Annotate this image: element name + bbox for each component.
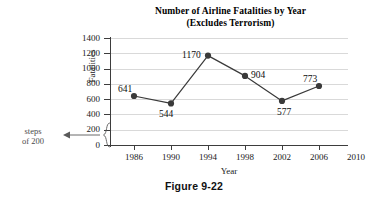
y-axis-title: Fatalities	[87, 32, 97, 100]
steps-annotation-pointer	[60, 118, 114, 152]
plot-area	[110, 38, 348, 145]
chart-title-line2: (Excludes Terrorism)	[186, 18, 274, 28]
chart-title: Number of Airline Fatalities by Year (Ex…	[108, 6, 353, 29]
y-axis-tick	[104, 114, 110, 115]
x-axis-tick	[134, 145, 135, 150]
x-axis-tick	[319, 145, 320, 150]
left-arrow-icon	[63, 132, 70, 139]
x-axis-label: 2006	[299, 152, 339, 162]
chart-title-line1: Number of Airline Fatalities by Year	[155, 6, 306, 16]
gridline	[110, 130, 348, 131]
gridline	[110, 53, 348, 54]
gridline	[110, 84, 348, 85]
figure-container: Number of Airline Fatalities by Year (Ex…	[0, 0, 388, 197]
x-axis-tick	[208, 145, 209, 150]
data-point-label: 904	[251, 70, 265, 80]
y-axis-tick	[104, 99, 110, 100]
steps-annotation-line1: steps	[25, 126, 42, 136]
data-point-label: 544	[159, 109, 173, 119]
x-axis-title: Year	[110, 166, 348, 176]
x-axis-tick	[245, 145, 246, 150]
gridline	[110, 99, 348, 100]
x-axis-label: 1990	[151, 152, 191, 162]
data-point-label: 641	[118, 84, 132, 94]
gridline	[110, 38, 348, 39]
gridline	[110, 114, 348, 115]
x-axis-label: 1986	[114, 152, 154, 162]
data-point-label: 1170	[182, 50, 201, 60]
gridline	[110, 69, 348, 70]
x-axis-label: 2002	[262, 152, 302, 162]
x-axis-label: 2010	[336, 152, 376, 162]
steps-annotation-line2: of 200	[22, 136, 44, 146]
x-axis-label: 1998	[225, 152, 265, 162]
data-point-label: 773	[303, 74, 317, 84]
steps-annotation-text: steps of 200	[2, 126, 64, 146]
y-axis-tick	[104, 53, 110, 54]
y-axis-tick	[104, 69, 110, 70]
x-axis-tick	[171, 145, 172, 150]
data-point-label: 577	[277, 107, 291, 117]
y-axis-tick	[104, 84, 110, 85]
curly-brace-icon	[104, 123, 110, 147]
x-axis-line	[110, 145, 348, 146]
x-axis-tick	[282, 145, 283, 150]
figure-caption: Figure 9-22	[0, 180, 388, 192]
y-axis-tick	[104, 38, 110, 39]
x-axis-label: 1994	[188, 152, 228, 162]
